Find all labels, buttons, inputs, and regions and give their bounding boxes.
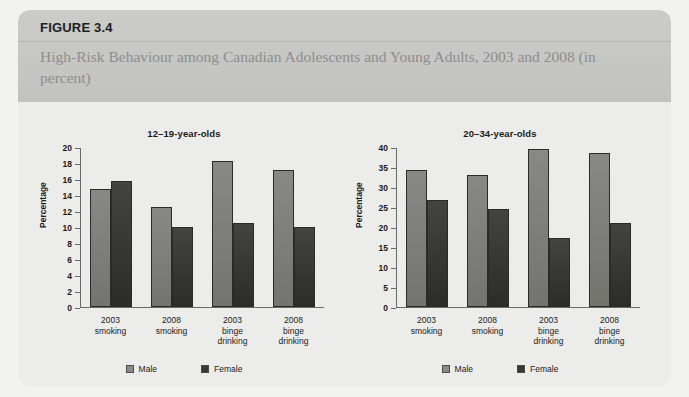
y-axis-tick: 0: [75, 308, 80, 309]
y-axis-tick-label: 0: [67, 303, 72, 313]
legend-label-female: Female: [214, 364, 242, 374]
x-axis-group-label: 2008 smoking: [141, 315, 202, 336]
x-axis-group-label: 2003 smoking: [396, 315, 457, 336]
y-axis-tick-label: 4: [67, 271, 72, 281]
bar-male: [212, 161, 233, 307]
legend-swatch-female-icon: [201, 365, 209, 373]
y-axis-tick: 4: [75, 276, 80, 277]
bar-male: [589, 153, 610, 307]
x-axis-group-label: 2003 binge drinking: [202, 315, 263, 347]
legend-item-female: Female: [517, 364, 558, 374]
header-divider: [18, 41, 671, 42]
y-axis-tick-label: 14: [63, 191, 72, 201]
y-axis-tick-label: 18: [63, 159, 72, 169]
y-axis-tick: 10: [75, 228, 80, 229]
bar-male: [467, 175, 488, 307]
y-axis-tick-label: 25: [379, 203, 388, 213]
bar-male: [273, 170, 294, 307]
y-axis-tick-label: 20: [379, 223, 388, 233]
bar-male: [406, 170, 427, 307]
y-axis-title: Percentage: [38, 182, 48, 228]
y-axis-line: [396, 148, 397, 308]
bar-female: [610, 223, 631, 307]
y-axis-tick: 40: [391, 148, 396, 149]
y-axis-tick: 8: [75, 244, 80, 245]
y-axis-tick-label: 8: [67, 239, 72, 249]
y-axis-tick: 15: [391, 248, 396, 249]
plot-area: 05101520253035402003 smoking2008 smoking…: [396, 148, 640, 308]
y-axis-tick: 16: [75, 180, 80, 181]
legend-swatch-male-icon: [442, 365, 450, 373]
y-axis-tick: 25: [391, 208, 396, 209]
y-axis-tick: 2: [75, 292, 80, 293]
x-axis-group-label: 2008 smoking: [457, 315, 518, 336]
legend-item-female: Female: [201, 364, 242, 374]
bar-male: [90, 189, 111, 307]
figure-body: 12–19-year-olds Percentage 0246810121416…: [18, 102, 671, 386]
y-axis-tick: 12: [75, 212, 80, 213]
y-axis-tick-label: 6: [67, 255, 72, 265]
y-axis-tick: 35: [391, 168, 396, 169]
legend-item-male: Male: [442, 364, 473, 374]
legend-item-male: Male: [126, 364, 157, 374]
bar-male: [528, 149, 549, 307]
chart-panel-young-adults: 20–34-year-olds Percentage 0510152025303…: [340, 102, 660, 386]
bar-male: [151, 207, 172, 307]
y-axis-tick-label: 5: [383, 283, 388, 293]
chart-legend: Male Female: [24, 364, 344, 374]
y-axis-tick: 14: [75, 196, 80, 197]
bar-female: [172, 227, 193, 307]
y-axis-tick-label: 2: [67, 287, 72, 297]
bar-female: [233, 223, 254, 307]
y-axis-tick-label: 35: [379, 163, 388, 173]
y-axis-tick-label: 40: [379, 143, 388, 153]
figure-subtitle: High-Risk Behaviour among Canadian Adole…: [40, 46, 640, 88]
y-axis-tick-label: 16: [63, 175, 72, 185]
y-axis-tick: 6: [75, 260, 80, 261]
legend-swatch-female-icon: [517, 365, 525, 373]
y-axis-tick-label: 10: [379, 263, 388, 273]
y-axis-title: Percentage: [354, 182, 364, 228]
y-axis-tick-label: 20: [63, 143, 72, 153]
x-axis-group-label: 2003 binge drinking: [518, 315, 579, 347]
y-axis-tick: 5: [391, 288, 396, 289]
legend-label-female: Female: [530, 364, 558, 374]
bar-female: [427, 200, 448, 307]
y-axis-tick: 20: [391, 228, 396, 229]
bar-female: [111, 181, 132, 307]
bar-female: [488, 209, 509, 307]
plot-area: 024681012141618202003 smoking2008 smokin…: [80, 148, 324, 308]
chart-title: 12–19-year-olds: [24, 128, 344, 139]
figure-card: FIGURE 3.4 High-Risk Behaviour among Can…: [18, 10, 671, 386]
x-axis-group-label: 2003 smoking: [80, 315, 141, 336]
figure-number: FIGURE 3.4: [40, 20, 113, 35]
legend-label-male: Male: [139, 364, 157, 374]
bar-female: [549, 238, 570, 307]
y-axis-tick-label: 0: [383, 303, 388, 313]
y-axis-line: [80, 148, 81, 308]
x-axis-line: [80, 307, 324, 308]
y-axis-tick-label: 30: [379, 183, 388, 193]
bar-female: [294, 227, 315, 307]
x-axis-line: [396, 307, 640, 308]
y-axis-tick-label: 15: [379, 243, 388, 253]
legend-swatch-male-icon: [126, 365, 134, 373]
y-axis-tick: 30: [391, 188, 396, 189]
y-axis-tick: 20: [75, 148, 80, 149]
x-axis-group-label: 2008 binge drinking: [579, 315, 640, 347]
chart-title: 20–34-year-olds: [340, 128, 660, 139]
figure-header: FIGURE 3.4 High-Risk Behaviour among Can…: [18, 10, 671, 102]
y-axis-tick: 0: [391, 308, 396, 309]
y-axis-tick: 18: [75, 164, 80, 165]
y-axis-tick: 10: [391, 268, 396, 269]
legend-label-male: Male: [455, 364, 473, 374]
y-axis-tick-label: 10: [63, 223, 72, 233]
chart-legend: Male Female: [340, 364, 660, 374]
chart-panel-adolescents: 12–19-year-olds Percentage 0246810121416…: [24, 102, 344, 386]
x-axis-group-label: 2008 binge drinking: [263, 315, 324, 347]
y-axis-tick-label: 12: [63, 207, 72, 217]
